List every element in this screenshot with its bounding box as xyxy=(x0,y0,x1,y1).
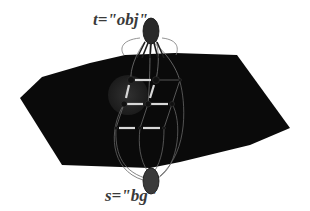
node xyxy=(145,101,151,107)
node xyxy=(153,77,160,84)
node xyxy=(170,102,175,107)
node xyxy=(128,77,135,84)
object-region xyxy=(20,53,290,168)
sink-terminal-label: t="obj" xyxy=(93,10,148,30)
node xyxy=(179,79,182,82)
node xyxy=(115,127,118,130)
node xyxy=(139,127,142,130)
node xyxy=(121,101,127,107)
node xyxy=(163,127,166,130)
source-terminal-label: s="bg" xyxy=(105,186,157,206)
graph-cut-diagram xyxy=(0,0,310,211)
